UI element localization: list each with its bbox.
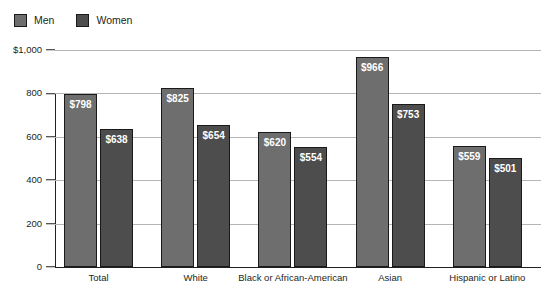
bar-value-label: $559 <box>454 152 485 162</box>
bar[interactable]: $559 <box>453 146 486 267</box>
bar-value-label: $654 <box>198 131 229 141</box>
y-axis-tick-mark <box>46 223 55 224</box>
legend-item-men: Men <box>14 14 54 27</box>
y-axis-tick-label: 600 <box>26 132 42 142</box>
legend-swatch-women-icon <box>76 14 89 27</box>
bar-group: $966$753 <box>356 57 425 267</box>
bar[interactable]: $654 <box>197 125 230 267</box>
gridline <box>55 50 541 51</box>
x-axis-category-label: Black or African-American <box>238 272 347 283</box>
y-axis: 0200400600800$1,000 <box>0 50 55 267</box>
bar-value-label: $825 <box>162 94 193 104</box>
y-axis-tick-label: 200 <box>26 219 42 229</box>
bar-value-label: $798 <box>65 100 96 110</box>
y-axis-tick-mark <box>46 50 55 51</box>
bar[interactable]: $554 <box>294 147 327 267</box>
bar-chart: Men Women 0200400600800$1,000 $798$638$8… <box>0 0 552 294</box>
y-axis-tick-mark <box>46 180 55 181</box>
y-axis-tick-mark <box>46 136 55 137</box>
x-axis-category-label: Asian <box>378 272 402 283</box>
bar[interactable]: $753 <box>392 104 425 267</box>
y-axis-tick-label: 400 <box>26 175 42 185</box>
y-axis-tick: 800 <box>26 89 55 99</box>
y-axis-tick-mark <box>46 267 55 268</box>
chart-legend: Men Women <box>14 12 132 28</box>
bar-value-label: $966 <box>357 63 388 73</box>
x-axis-category-label: Hispanic or Latino <box>449 272 525 283</box>
y-axis-tick-label: 0 <box>37 262 42 272</box>
x-axis-category-label: Total <box>88 272 108 283</box>
bar-group: $620$554 <box>258 132 327 267</box>
y-axis-tick-label: $1,000 <box>13 45 42 55</box>
bar-group: $798$638 <box>64 94 133 267</box>
bar-value-label: $501 <box>490 164 521 174</box>
y-axis-tick: 600 <box>26 132 55 142</box>
bar[interactable]: $825 <box>161 88 194 267</box>
bar-group: $559$501 <box>453 146 522 267</box>
bar[interactable]: $966 <box>356 57 389 267</box>
bar[interactable]: $638 <box>100 129 133 267</box>
bar-value-label: $753 <box>393 110 424 120</box>
bar[interactable]: $501 <box>489 158 522 267</box>
legend-swatch-men-icon <box>14 14 27 27</box>
y-axis-tick: $1,000 <box>13 45 55 55</box>
y-axis-tick: 400 <box>26 175 55 185</box>
bar[interactable]: $620 <box>258 132 291 267</box>
y-axis-tick-mark <box>46 93 55 94</box>
y-axis-tick: 200 <box>26 219 55 229</box>
bar-value-label: $638 <box>101 135 132 145</box>
y-axis-tick-label: 800 <box>26 89 42 99</box>
y-axis-tick: 0 <box>37 262 55 272</box>
x-axis-category-label: White <box>184 272 208 283</box>
plot-area: $798$638$825$654$620$554$966$753$559$501 <box>55 50 541 267</box>
bar-value-label: $554 <box>295 153 326 163</box>
legend-label-women: Women <box>96 15 132 26</box>
x-axis-baseline <box>55 267 541 268</box>
legend-label-men: Men <box>34 15 54 26</box>
bar[interactable]: $798 <box>64 94 97 267</box>
bar-value-label: $620 <box>259 138 290 148</box>
x-axis-labels: TotalWhiteBlack or African-AmericanAsian… <box>55 272 541 286</box>
bar-group: $825$654 <box>161 88 230 267</box>
legend-item-women: Women <box>76 14 132 27</box>
